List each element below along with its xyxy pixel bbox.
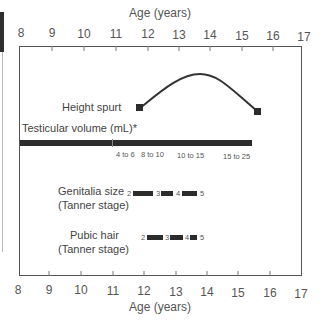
genitalia-bar-3-4 [161, 191, 173, 196]
bottom-axis-title: Age (years) [129, 300, 191, 314]
pubic-bar-4-5 [190, 235, 197, 240]
height-spurt-curve [140, 74, 257, 111]
bottom-tick-11: 11 [107, 284, 119, 298]
tv-annotation-1: 4 to 6 [116, 150, 135, 159]
tv-annotation-3: 10 to 15 [177, 151, 204, 160]
pubic-stage-4: 4 [185, 233, 189, 242]
testicular-volume-marker [112, 139, 113, 147]
genitalia-label-line1: Genitalia size [58, 185, 124, 197]
pubic-stage-5: 5 [200, 233, 204, 242]
bottom-tick-17: 17 [294, 287, 307, 301]
genitalia-stage-3: 3 [156, 189, 160, 198]
height-spurt-start-marker [136, 104, 143, 111]
bottom-tick-9: 9 [46, 283, 53, 297]
pubic-bar-2-3 [147, 235, 163, 240]
genitalia-stage-5: 5 [200, 189, 204, 198]
bottom-tick-14: 14 [200, 285, 213, 299]
genitalia-stage-2: 2 [127, 189, 131, 198]
height-spurt-label: Height spurt [62, 101, 121, 113]
genitalia-stage-4: 4 [176, 189, 180, 198]
bottom-tick-12: 12 [137, 284, 150, 298]
pubic-stage-2: 2 [141, 233, 145, 242]
genitalia-bar-2-3 [133, 191, 153, 196]
pubic-hair-label-line1: Pubic hair [70, 229, 119, 241]
testicular-volume-label: Testicular volume (mL)* [22, 122, 137, 134]
bottom-tick-15: 15 [231, 286, 244, 300]
genitalia-bar-4-5 [182, 191, 197, 196]
bottom-tick-10: 10 [74, 283, 87, 297]
pubic-stage-3: 3 [165, 233, 169, 242]
tick-marks [0, 0, 320, 321]
bottom-tick-8: 8 [15, 283, 22, 297]
bottom-tick-13: 13 [169, 285, 182, 299]
pubic-bar-3-4 [170, 235, 183, 240]
genitalia-label-line2: (Tanner stage) [58, 199, 129, 211]
bottom-tick-16: 16 [263, 286, 276, 300]
tv-annotation-2: 8 to 10 [141, 150, 164, 159]
pubic-hair-label-line2: (Tanner stage) [58, 243, 129, 255]
height-spurt-end-marker [254, 108, 261, 115]
tv-annotation-4: 15 to 25 [223, 152, 250, 161]
testicular-volume-bar [20, 140, 252, 146]
